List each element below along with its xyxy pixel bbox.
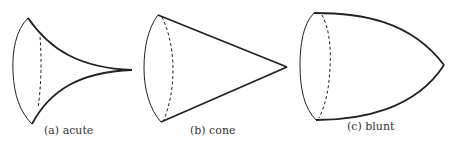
caption-acute: (a) acute — [44, 124, 93, 137]
cone-shape — [144, 15, 287, 122]
caption-cone: (b) cone — [190, 124, 236, 137]
acute-shape — [13, 18, 132, 124]
blunt-shape — [300, 13, 444, 120]
caption-blunt: (c) blunt — [347, 120, 394, 133]
